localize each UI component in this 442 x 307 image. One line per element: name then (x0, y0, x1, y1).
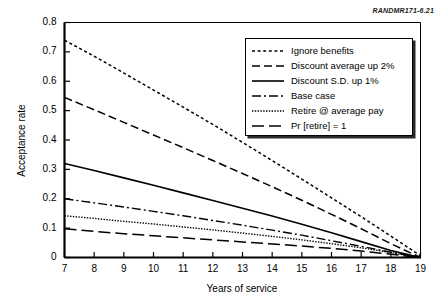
legend-line-sample-icon (251, 105, 285, 117)
legend-line-sample-icon (251, 75, 285, 87)
legend-line-sample-icon (251, 120, 285, 132)
legend-item-label: Base case (291, 90, 335, 102)
legend-item: Pr [retire] = 1 (251, 118, 407, 133)
x-tick-label: 9 (113, 263, 135, 274)
y-tick-label: 0.3 (31, 163, 57, 174)
chart-figure: RANDMR171-6.21 00.10.20.30.40.50.60.70.8… (0, 0, 442, 307)
series-line-3 (65, 164, 421, 258)
x-tick-label: 13 (232, 263, 254, 274)
x-tick-label: 12 (202, 263, 224, 274)
y-tick-label: 0.2 (31, 192, 57, 203)
x-tick-label: 17 (350, 263, 372, 274)
x-tick-label: 16 (321, 263, 343, 274)
legend-item-label: Discount S.D. up 1% (291, 75, 379, 87)
legend-item-label: Retire @ average pay (291, 105, 384, 117)
series-line-5 (65, 216, 421, 258)
chart-legend: Ignore benefitsDiscount average up 2%Dis… (245, 38, 413, 136)
x-tick-label: 8 (83, 263, 105, 274)
legend-line-sample-icon (251, 60, 285, 72)
y-tick-label: 0.6 (31, 75, 57, 86)
y-tick-label: 0.8 (31, 16, 57, 27)
y-axis-title: Acceptance rate (16, 71, 27, 211)
y-tick-label: 0.5 (31, 104, 57, 115)
legend-item-label: Pr [retire] = 1 (291, 120, 346, 132)
x-tick-label: 18 (380, 263, 402, 274)
x-tick-label: 14 (261, 263, 283, 274)
x-tick-label: 10 (143, 263, 165, 274)
x-axis-title: Years of service (64, 283, 420, 294)
x-tick-label: 19 (410, 263, 432, 274)
legend-item: Ignore benefits (251, 43, 407, 58)
legend-line-sample-icon (251, 45, 285, 57)
y-tick-label: 0 (31, 251, 57, 262)
y-tick-label: 0.7 (31, 45, 57, 56)
legend-item: Discount S.D. up 1% (251, 73, 407, 88)
x-tick-label: 11 (172, 263, 194, 274)
legend-line-sample-icon (251, 90, 285, 102)
x-tick-label: 15 (291, 263, 313, 274)
y-tick-label: 0.1 (31, 222, 57, 233)
legend-item-label: Discount average up 2% (291, 60, 395, 72)
legend-item: Retire @ average pay (251, 103, 407, 118)
legend-item: Base case (251, 88, 407, 103)
y-tick-label: 0.4 (31, 134, 57, 145)
x-tick-label: 7 (54, 263, 76, 274)
legend-item-label: Ignore benefits (291, 45, 354, 57)
legend-item: Discount average up 2% (251, 58, 407, 73)
